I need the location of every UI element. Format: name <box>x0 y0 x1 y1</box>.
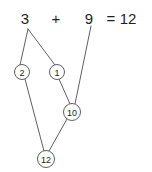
edge-3-to-node2 <box>20 29 28 65</box>
node-12-label: 12 <box>41 155 51 165</box>
node-1: 1 <box>50 65 65 80</box>
edge-group <box>20 26 91 151</box>
edge-3-to-node1 <box>28 29 55 65</box>
edge-node10-to-node12 <box>49 119 67 151</box>
equals-sign: = <box>107 10 116 27</box>
result-12: 12 <box>120 10 137 27</box>
operand-right-9: 9 <box>85 10 93 27</box>
node-12: 12 <box>38 151 55 168</box>
decomposition-diagram: 3 + 9 = 12 2 1 10 12 <box>0 0 152 172</box>
edge-node2-to-node12 <box>25 79 44 151</box>
node-2: 2 <box>15 65 30 80</box>
operand-left-3: 3 <box>21 10 29 27</box>
equation-row: 3 + 9 = 12 <box>21 10 137 27</box>
edge-9-to-node10 <box>75 26 91 104</box>
operator-plus: + <box>52 10 61 27</box>
node-10: 10 <box>64 104 81 121</box>
node-2-label: 2 <box>19 68 24 78</box>
diagram-canvas: 3 + 9 = 12 2 1 10 12 <box>0 0 152 172</box>
edge-node1-to-node10 <box>59 79 70 104</box>
node-10-label: 10 <box>67 108 77 118</box>
node-1-label: 1 <box>54 68 59 78</box>
